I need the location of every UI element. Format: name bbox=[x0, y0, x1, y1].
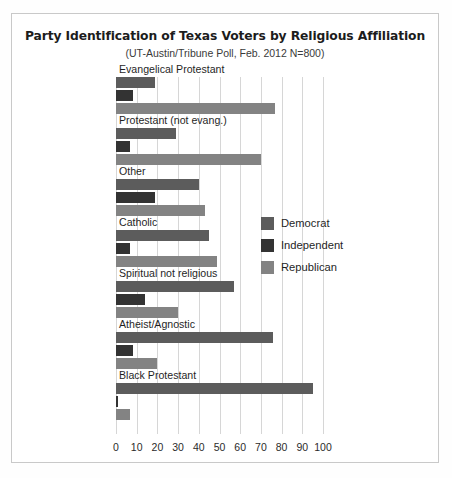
chart-frame: Party Identification of Texas Voters by … bbox=[11, 13, 439, 463]
x-axis-tick-100: 100 bbox=[314, 441, 332, 453]
gridline-50 bbox=[220, 77, 221, 434]
legend-item-democrat: Democrat bbox=[261, 212, 343, 234]
bar-independent-evangelical-protestant bbox=[116, 90, 133, 101]
x-axis-tick-40: 40 bbox=[193, 441, 205, 453]
bar-independent-protestant-not-evang bbox=[116, 141, 130, 152]
bar-republican-catholic bbox=[116, 256, 217, 267]
bar-democrat-spiritual-not-religious bbox=[116, 281, 234, 292]
x-axis-tick-50: 50 bbox=[214, 441, 226, 453]
bar-democrat-atheist-agnostic bbox=[116, 332, 273, 343]
x-axis-tick-10: 10 bbox=[131, 441, 143, 453]
bar-republican-protestant-not-evang bbox=[116, 154, 261, 165]
category-label: Black Protestant bbox=[119, 369, 196, 381]
x-axis-tick-70: 70 bbox=[255, 441, 267, 453]
bar-democrat-black-protestant bbox=[116, 383, 313, 394]
legend-item-independent: Independent bbox=[261, 234, 343, 256]
legend-item-republican: Republican bbox=[261, 256, 343, 278]
category-label: Catholic bbox=[119, 216, 157, 228]
plot-area: 0102030405060708090100Evangelical Protes… bbox=[12, 14, 440, 464]
legend-swatch-republican bbox=[261, 261, 274, 274]
legend-label-independent: Independent bbox=[281, 239, 343, 251]
category-label: Evangelical Protestant bbox=[119, 63, 224, 75]
gridline-60 bbox=[240, 77, 241, 434]
x-axis-tick-0: 0 bbox=[113, 441, 119, 453]
chart-legend: Democrat Independent Republican bbox=[261, 212, 343, 278]
bar-democrat-evangelical-protestant bbox=[116, 77, 155, 88]
bar-republican-evangelical-protestant bbox=[116, 103, 275, 114]
bar-republican-spiritual-not-religious bbox=[116, 307, 178, 318]
legend-swatch-democrat bbox=[261, 217, 274, 230]
bar-republican-other bbox=[116, 205, 205, 216]
bar-republican-atheist-agnostic bbox=[116, 358, 157, 369]
bar-republican-black-protestant bbox=[116, 409, 130, 420]
x-axis-tick-20: 20 bbox=[152, 441, 164, 453]
category-label: Other bbox=[119, 165, 146, 177]
bar-independent-spiritual-not-religious bbox=[116, 294, 145, 305]
bar-democrat-protestant-not-evang bbox=[116, 128, 176, 139]
bar-independent-black-protestant bbox=[116, 396, 118, 407]
bar-independent-atheist-agnostic bbox=[116, 345, 133, 356]
bar-independent-catholic bbox=[116, 243, 130, 254]
x-axis-tick-90: 90 bbox=[296, 441, 308, 453]
x-axis-tick-80: 80 bbox=[276, 441, 288, 453]
category-label: Protestant (not evang.) bbox=[119, 114, 227, 126]
category-label: Spiritual not religious bbox=[119, 267, 217, 279]
category-label: Atheist/Agnostic bbox=[119, 318, 195, 330]
bar-democrat-catholic bbox=[116, 230, 209, 241]
x-axis-tick-60: 60 bbox=[234, 441, 246, 453]
legend-swatch-independent bbox=[261, 239, 274, 252]
bar-democrat-other bbox=[116, 179, 199, 190]
x-axis-tick-30: 30 bbox=[172, 441, 184, 453]
chart-figure: Party Identification of Texas Voters by … bbox=[0, 0, 452, 478]
legend-label-democrat: Democrat bbox=[281, 217, 330, 229]
bar-independent-other bbox=[116, 192, 155, 203]
legend-label-republican: Republican bbox=[281, 261, 337, 273]
